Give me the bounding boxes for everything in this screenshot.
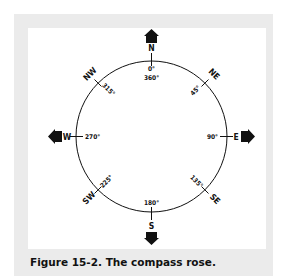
southwest-label: SW bbox=[80, 189, 97, 206]
south-label: S bbox=[149, 221, 155, 231]
west-label: W bbox=[63, 132, 72, 142]
degree-45: 45° bbox=[189, 84, 203, 98]
north-arrow-icon bbox=[144, 29, 159, 43]
southeast-label: SE bbox=[208, 192, 223, 207]
degree-360: 360° bbox=[144, 74, 159, 82]
south-arrow-icon bbox=[144, 232, 159, 245]
degree-270: 270° bbox=[85, 133, 100, 141]
degree-180: 180° bbox=[144, 199, 159, 207]
compass-rose-diagram: N 0° 360° 180° S W 270° 90° E NW 315° NE… bbox=[0, 0, 284, 276]
west-arrow-icon bbox=[48, 129, 62, 144]
east-arrow-icon bbox=[241, 129, 255, 144]
degree-0: 0° bbox=[148, 65, 155, 73]
degree-315: 315° bbox=[100, 81, 116, 97]
east-label: E bbox=[233, 132, 238, 142]
degree-90: 90° bbox=[207, 133, 218, 141]
northwest-label: NW bbox=[81, 65, 99, 83]
north-label: N bbox=[148, 43, 154, 53]
figure-caption: Figure 15-2. The compass rose. bbox=[30, 256, 216, 268]
degree-225: 225° bbox=[98, 173, 114, 189]
northeast-label: NE bbox=[206, 66, 221, 81]
